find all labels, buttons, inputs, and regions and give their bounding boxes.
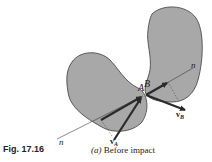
figure-number: Fig. 17.16 bbox=[3, 144, 44, 154]
label-normal-left: n bbox=[59, 138, 64, 147]
body-a bbox=[67, 53, 147, 132]
label-point-b: B bbox=[144, 79, 150, 89]
label-normal-right: n bbox=[191, 61, 196, 70]
label-velocity-b: vB bbox=[176, 111, 184, 120]
impact-diagram bbox=[0, 0, 212, 162]
figure-caption: (a) Before impact bbox=[91, 146, 155, 155]
body-b bbox=[145, 7, 202, 102]
